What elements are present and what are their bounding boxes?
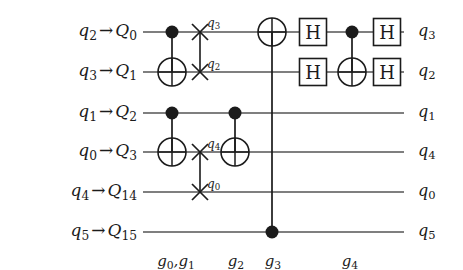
left-mapping-label-w2: q1→Q2 xyxy=(25,103,137,123)
right-qubit-label-w1: q2 xyxy=(418,63,436,82)
quantum-circuit-figure: HHHH q2→Q0q3→Q1q1→Q2q0→Q3q4→Q14q5→Q15q3q… xyxy=(0,0,463,270)
left-mapping-label-w3: q0→Q3 xyxy=(25,142,137,162)
h-gate-label-hadamard-q0-first: H xyxy=(305,22,321,43)
left-mapping-label-w4: q4→Q14 xyxy=(25,182,137,202)
h-gate-label-hadamard-q1-first: H xyxy=(305,62,321,83)
right-qubit-label-w0: q3 xyxy=(418,23,436,42)
step-g0-g1: g0,g1 xyxy=(157,254,195,270)
step-g3: g3 xyxy=(265,254,281,270)
swap-label-q3: q3 xyxy=(207,17,220,31)
swap-label-q0: q0 xyxy=(207,178,220,192)
control-dot-cnot-g3 xyxy=(266,226,279,239)
h-gate-label-hadamard-q1-second: H xyxy=(379,62,395,83)
control-dot-cnot-g2 xyxy=(229,107,242,120)
control-dot-cnot-g1 xyxy=(166,107,179,120)
left-mapping-label-w1: q3→Q1 xyxy=(25,62,137,82)
right-qubit-label-w3: q4 xyxy=(418,143,436,162)
control-dot-cnot-g0 xyxy=(166,26,179,39)
right-qubit-label-w4: q0 xyxy=(418,183,436,202)
control-dot-cnot-g4 xyxy=(346,26,359,39)
swap-label-q2: q2 xyxy=(207,58,220,72)
right-qubit-label-w2: q1 xyxy=(418,104,436,123)
step-g2: g2 xyxy=(228,254,244,270)
step-g4: g4 xyxy=(342,254,358,270)
left-mapping-label-w5: q5→Q15 xyxy=(25,222,137,242)
swap-label-q4: q4 xyxy=(207,138,220,152)
right-qubit-label-w5: q5 xyxy=(418,223,436,242)
h-gate-label-hadamard-q0-second: H xyxy=(379,22,395,43)
left-mapping-label-w0: q2→Q0 xyxy=(25,22,137,42)
